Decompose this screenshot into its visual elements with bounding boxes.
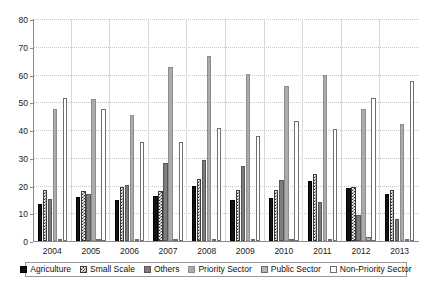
bar-2010-priority-sector[interactable] [284,86,288,241]
bar-2008-agriculture[interactable] [192,186,196,242]
bar-2013-small-scale[interactable] [390,190,394,241]
bar-2011-agriculture[interactable] [308,181,312,241]
bar-2013-priority-sector[interactable] [400,124,404,241]
bar-2010-agriculture[interactable] [269,198,273,241]
bar-group-2008 [187,19,226,241]
legend-swatch-icon [20,266,27,273]
bar-2005-others[interactable] [86,194,90,241]
bar-2009-priority-sector[interactable] [246,74,250,241]
bar-2010-others[interactable] [279,180,283,241]
plot-area: 01020304050607080 [33,19,419,241]
bar-chart: 01020304050607080 2004200520062007200820… [0,0,430,294]
y-tick-label-60: 60 [19,71,28,80]
bar-2007-others[interactable] [163,163,167,241]
legend-item-non-priority-sector[interactable]: Non-Priority Sector [330,265,412,274]
x-axis-label-2010: 2010 [265,244,304,258]
bar-2009-small-scale[interactable] [236,190,240,241]
legend-item-label: Small Scale [90,265,135,274]
legend-item-public-sector[interactable]: Public Sector [261,265,321,274]
y-tick-label-70: 70 [19,44,28,53]
bar-group-2006 [110,19,149,241]
bar-2011-others[interactable] [318,202,322,241]
bar-2012-others[interactable] [356,215,360,241]
bar-2006-small-scale[interactable] [120,187,124,241]
y-tick-label-40: 40 [19,127,28,136]
bar-2010-small-scale[interactable] [274,190,278,241]
bar-2007-priority-sector[interactable] [168,67,172,241]
bar-2004-others[interactable] [48,199,52,241]
bar-group-2005 [72,19,111,241]
bar-2005-small-scale[interactable] [81,191,85,242]
bar-2007-non-priority-sector[interactable] [179,142,183,241]
bar-2011-priority-sector[interactable] [323,75,327,241]
legend-swatch-icon [144,266,151,273]
x-axis-label-2013: 2013 [380,244,419,258]
bar-2005-agriculture[interactable] [76,197,80,241]
bar-2005-priority-sector[interactable] [91,99,95,241]
bar-group-2007 [149,19,188,241]
legend-swatch-icon [188,266,195,273]
bar-2008-priority-sector[interactable] [207,56,211,241]
bar-group-2009 [226,19,265,241]
bar-2012-non-priority-sector[interactable] [371,98,375,241]
bar-2012-priority-sector[interactable] [361,109,365,241]
legend-swatch-icon [330,266,337,273]
bar-2013-others[interactable] [395,219,399,241]
legend-item-label: Priority Sector [198,265,251,274]
bar-group-2011 [303,19,342,241]
bar-2008-small-scale[interactable] [197,179,201,241]
x-axis-label-2011: 2011 [303,244,342,258]
legend-item-label: Public Sector [271,265,321,274]
legend-item-priority-sector[interactable]: Priority Sector [188,265,251,274]
y-tick-label-50: 50 [19,99,28,108]
y-tick-label-0: 0 [23,238,28,247]
x-axis-line [33,241,419,242]
bar-2009-non-priority-sector[interactable] [256,136,260,241]
bar-2013-non-priority-sector[interactable] [410,81,414,241]
legend-item-label: Others [154,265,180,274]
bar-2006-priority-sector[interactable] [130,115,134,241]
y-tick-label-10: 10 [19,210,28,219]
legend-item-small-scale[interactable]: Small Scale [80,265,135,274]
y-tick-mark-0 [30,242,33,243]
y-axis-line [33,19,34,242]
x-axis-label-2008: 2008 [187,244,226,258]
bar-2006-others[interactable] [125,185,129,241]
chart-legend: AgricultureSmall ScaleOthersPriority Sec… [25,262,407,277]
bar-2009-agriculture[interactable] [230,200,234,241]
x-axis-labels: 2004200520062007200820092010201120122013 [33,244,419,258]
bar-2008-others[interactable] [202,160,206,241]
y-tick-label-20: 20 [19,182,28,191]
bar-2007-agriculture[interactable] [153,196,157,242]
y-tick-label-30: 30 [19,155,28,164]
bar-group-2013 [380,19,419,241]
legend-swatch-icon [80,266,87,273]
bar-2009-others[interactable] [241,166,245,241]
x-axis-label-2004: 2004 [33,244,72,258]
legend-item-agriculture[interactable]: Agriculture [20,265,71,274]
bar-2004-priority-sector[interactable] [53,109,57,241]
legend-item-others[interactable]: Others [144,265,180,274]
bar-group-2012 [342,19,381,241]
x-axis-label-2006: 2006 [110,244,149,258]
bar-2011-non-priority-sector[interactable] [333,129,337,241]
bar-2008-non-priority-sector[interactable] [217,128,221,241]
bar-2007-small-scale[interactable] [158,191,162,241]
bar-2010-non-priority-sector[interactable] [294,121,298,241]
bar-2004-agriculture[interactable] [38,204,42,241]
bar-2006-non-priority-sector[interactable] [140,142,144,241]
bar-2004-non-priority-sector[interactable] [63,98,67,241]
x-axis-label-2012: 2012 [342,244,381,258]
x-axis-label-2009: 2009 [226,244,265,258]
bar-group-2004 [33,19,72,241]
bar-2011-small-scale[interactable] [313,174,317,241]
legend-swatch-icon [261,266,268,273]
bar-2012-small-scale[interactable] [351,187,355,241]
bar-2006-agriculture[interactable] [115,200,119,241]
x-axis-label-2007: 2007 [149,244,188,258]
bar-2012-agriculture[interactable] [346,188,350,241]
bar-2004-small-scale[interactable] [43,190,47,241]
bar-2005-non-priority-sector[interactable] [101,109,105,241]
bar-2013-agriculture[interactable] [385,194,389,241]
bar-groups [33,19,419,241]
